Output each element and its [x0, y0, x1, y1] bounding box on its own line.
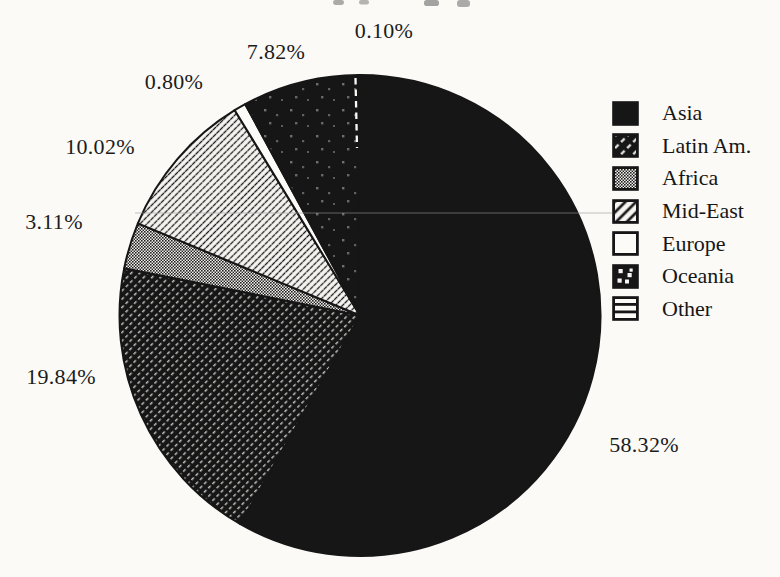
legend-swatch-oceania-icon [612, 264, 639, 289]
slice-value-label-africa: 3.11% [25, 209, 83, 235]
legend-label-africa: Africa [662, 167, 718, 189]
legend-item-europe: Europe [612, 227, 751, 260]
slice-value-label-oceania: 7.82% [247, 39, 305, 65]
slice-value-label-mid-east: 10.02% [65, 134, 135, 160]
legend-label-latin-am: Latin Am. [662, 135, 751, 157]
legend-label-mid-east: Mid-East [662, 200, 744, 222]
legend-label-oceania: Oceania [662, 265, 734, 287]
slice-value-label-europe: 0.80% [145, 69, 203, 95]
slice-value-label-asia: 58.32% [609, 432, 679, 458]
legend-swatch-mid-east-icon [612, 199, 639, 224]
legend-swatch-latin-am-icon [612, 133, 639, 158]
legend-item-africa: Africa [612, 162, 751, 195]
legend-item-mid-east: Mid-East [612, 195, 751, 228]
legend-label-other: Other [662, 298, 712, 320]
legend: Asia Latin Am. Africa Mid-East Europe [612, 97, 751, 325]
slice-value-label-latin-am: 19.84% [26, 364, 96, 390]
legend-label-asia: Asia [662, 102, 702, 124]
legend-swatch-asia-icon [612, 101, 639, 126]
slice-value-label-other: 0.10% [355, 18, 413, 44]
cropped-title-remnant [333, 0, 470, 7]
legend-swatch-other-icon [612, 296, 639, 321]
legend-item-other: Other [612, 293, 751, 326]
legend-item-oceania: Oceania [612, 260, 751, 293]
legend-swatch-africa-icon [612, 166, 639, 191]
legend-label-europe: Europe [662, 233, 726, 255]
legend-item-asia: Asia [612, 97, 751, 130]
legend-swatch-europe-icon [612, 231, 639, 256]
legend-item-latin-am: Latin Am. [612, 130, 751, 163]
pie-chart-page: 58.32% 19.84% 3.11% 10.02% 0.80% 7.82% 0… [0, 0, 780, 577]
